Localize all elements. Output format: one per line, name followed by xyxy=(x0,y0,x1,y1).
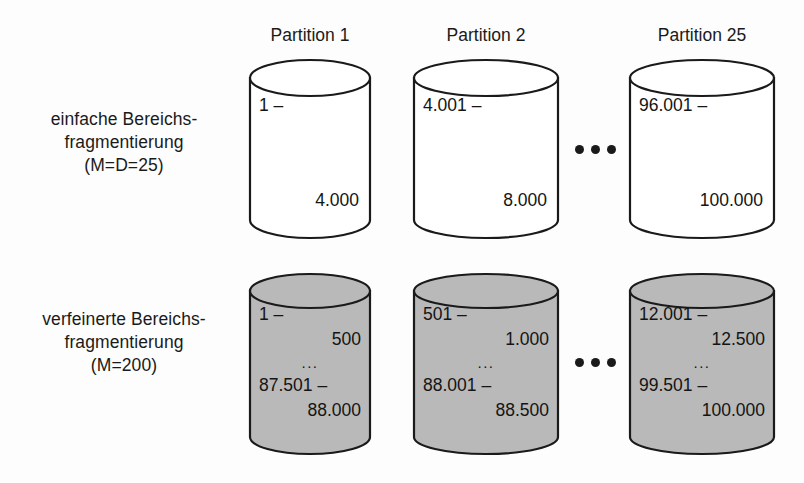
cylinder-range-line-1: 1 – xyxy=(248,302,372,327)
row-label-line-1: verfeinerte Bereichs- xyxy=(8,308,240,331)
ellipsis-dot xyxy=(607,145,616,154)
row-label-einfache-bereichsfragmentierung: einfache Bereichs- fragmentierung (M=D=2… xyxy=(8,108,240,177)
cylinder-range-line-5: 88.500 xyxy=(412,398,560,423)
cylinder-shape-plain xyxy=(412,58,560,240)
ellipsis-dot xyxy=(607,358,616,367)
row-separator-ellipsis-simple xyxy=(575,145,616,154)
cylinder-range-start: 4.001 – xyxy=(412,94,560,116)
cylinder-range-line-5: 100.000 xyxy=(628,398,776,423)
column-header-partition-2: Partition 2 xyxy=(412,24,560,46)
cylinder-range-end: 100.000 xyxy=(628,189,776,211)
cylinder-range-end: 4.000 xyxy=(248,189,372,211)
figure-canvas: Partition 1 Partition 2 Partition 25 ein… xyxy=(0,0,804,483)
row-label-line-3: (M=D=25) xyxy=(8,154,240,177)
cylinder-range-start: 96.001 – xyxy=(628,94,776,116)
cylinder-range-line-4: 88.001 – xyxy=(412,373,560,398)
cylinder-partition-2-simple: 4.001 – 8.000 xyxy=(412,58,560,240)
cylinder-range-ellipsis: ... xyxy=(412,355,560,371)
cylinder-range-line-2: 1.000 xyxy=(412,327,560,352)
cylinder-shape-plain xyxy=(628,58,776,240)
cylinder-partition-2-refined: 501 – 1.000 ... 88.001 – 88.500 xyxy=(412,272,560,456)
column-header-partition-25: Partition 25 xyxy=(628,24,776,46)
row-label-verfeinerte-bereichsfragmentierung: verfeinerte Bereichs- fragmentierung (M=… xyxy=(8,308,240,377)
cylinder-range-line-2: 12.500 xyxy=(628,327,776,352)
ellipsis-dot xyxy=(591,145,600,154)
ellipsis-dot xyxy=(575,145,584,154)
cylinder-range-line-4: 87.501 – xyxy=(248,373,372,398)
cylinder-range-ellipsis: ... xyxy=(248,355,372,371)
cylinder-range-end: 8.000 xyxy=(412,189,560,211)
cylinder-shape-plain xyxy=(248,58,372,240)
cylinder-range-ellipsis: ... xyxy=(628,355,776,371)
row-label-line-3: (M=200) xyxy=(8,354,240,377)
row-label-line-2: fragmentierung xyxy=(8,331,240,354)
row-separator-ellipsis-refined xyxy=(575,358,616,367)
cylinder-range-line-1: 501 – xyxy=(412,302,560,327)
ellipsis-dot xyxy=(591,358,600,367)
cylinder-partition-25-simple: 96.001 – 100.000 xyxy=(628,58,776,240)
cylinder-range-line-1: 12.001 – xyxy=(628,302,776,327)
column-header-partition-1: Partition 1 xyxy=(248,24,372,46)
cylinder-range-start: 1 – xyxy=(248,94,372,116)
cylinder-range-line-5: 88.000 xyxy=(248,398,372,423)
ellipsis-dot xyxy=(575,358,584,367)
cylinder-range-line-2: 500 xyxy=(248,327,372,352)
cylinder-partition-1-simple: 1 – 4.000 xyxy=(248,58,372,240)
cylinder-range-line-4: 99.501 – xyxy=(628,373,776,398)
cylinder-partition-25-refined: 12.001 – 12.500 ... 99.501 – 100.000 xyxy=(628,272,776,456)
cylinder-partition-1-refined: 1 – 500 ... 87.501 – 88.000 xyxy=(248,272,372,456)
row-label-line-1: einfache Bereichs- xyxy=(8,108,240,131)
row-label-line-2: fragmentierung xyxy=(8,131,240,154)
